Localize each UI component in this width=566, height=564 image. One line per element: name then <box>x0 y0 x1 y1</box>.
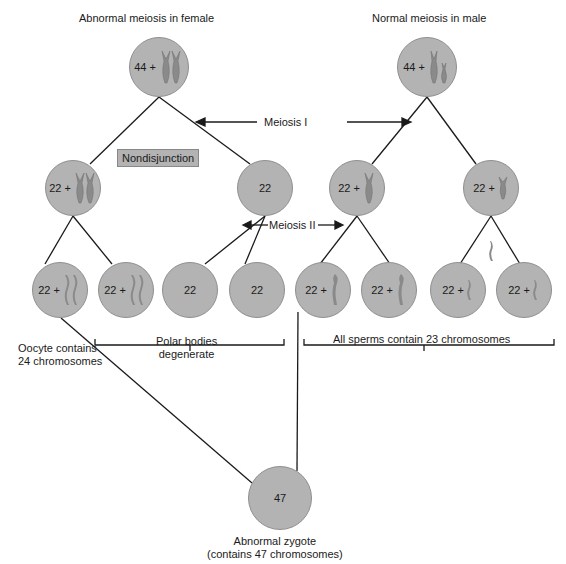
cell-label: 22 <box>259 182 271 194</box>
chromosome-x-icon <box>362 171 376 205</box>
oocyte-caption: Oocyte contains 24 chromosomes <box>18 342 102 368</box>
caption-line: degenerate <box>156 348 217 361</box>
cell-label: 22 + <box>49 182 71 194</box>
cell-label: 44 + <box>134 61 156 73</box>
polar-bodies-caption: Polar bodies degenerate <box>156 335 217 361</box>
sperm-cell-3: 22 + <box>430 262 486 318</box>
abnormal-zygote-cell: 47 <box>248 466 312 530</box>
cell-label: 22 <box>251 284 263 296</box>
nondisjunction-label: Nondisjunction <box>117 149 199 167</box>
cell-label: 22 + <box>508 284 530 296</box>
meiosis-1-label: Meiosis I <box>264 116 307 129</box>
chromatid-pair-icon <box>128 273 148 307</box>
polar-body-cell-3: 22 <box>229 262 285 318</box>
male-title: Normal meiosis in male <box>372 12 486 25</box>
cell-label: 22 + <box>338 182 360 194</box>
chromosome-xy-icon <box>427 49 451 85</box>
female-meiosis1-cell-left: 22 + <box>45 160 101 216</box>
chromatid-x-icon <box>329 273 341 307</box>
male-parent-cell: 44 + <box>397 37 457 97</box>
chromosome-y-icon <box>497 175 509 201</box>
male-meiosis1-cell-right: 22 + <box>463 160 519 216</box>
caption-line: (contains 47 chromosomes) <box>207 548 343 561</box>
oocyte-cell: 22 + <box>32 262 88 318</box>
cell-label: 22 + <box>104 284 126 296</box>
cell-label: 22 + <box>38 284 60 296</box>
caption-line: 24 chromosomes <box>18 355 102 368</box>
chromosome-pair-icon <box>73 171 97 205</box>
cell-label: 22 + <box>371 284 393 296</box>
female-parent-cell: 44 + <box>129 37 189 97</box>
cell-label: 47 <box>274 492 286 504</box>
caption-line: Oocyte contains <box>18 342 102 355</box>
cell-label: 22 + <box>473 182 495 194</box>
polar-body-cell-1: 22 + <box>98 262 154 318</box>
male-meiosis1-cell-left: 22 + <box>329 160 385 216</box>
chromatid-pair-icon <box>62 273 82 307</box>
chromatid-y-icon <box>466 279 474 301</box>
sperm-cell-1: 22 + <box>295 262 351 318</box>
caption-line: Polar bodies <box>156 335 217 348</box>
chromatid-x-icon <box>395 273 407 307</box>
polar-body-cell-2: 22 <box>162 262 218 318</box>
sperm-cell-2: 22 + <box>361 262 417 318</box>
meiosis-2-label: Meiosis II <box>269 219 315 232</box>
chromosome-fragment-icon <box>488 240 496 262</box>
cell-label: 22 + <box>305 284 327 296</box>
sperm-cell-4: 22 + <box>496 262 552 318</box>
chromatid-y-icon <box>532 279 540 301</box>
cell-label: 22 + <box>442 284 464 296</box>
caption-line: Abnormal zygote <box>207 535 343 548</box>
cell-label: 22 <box>184 284 196 296</box>
female-meiosis1-cell-right: 22 <box>237 160 293 216</box>
chromosome-pair-icon <box>158 49 184 85</box>
sperms-caption: All sperms contain 23 chromosomes <box>333 333 510 346</box>
zygote-caption: Abnormal zygote (contains 47 chromosomes… <box>207 535 343 561</box>
female-title: Abnormal meiosis in female <box>79 12 214 25</box>
cell-label: 44 + <box>403 61 425 73</box>
